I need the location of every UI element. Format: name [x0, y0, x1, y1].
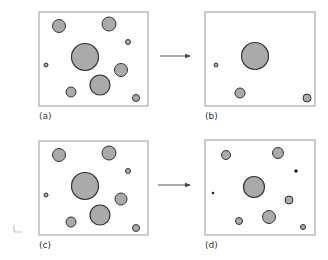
- particle-circle: [102, 146, 116, 160]
- particle-circle: [53, 20, 66, 33]
- panels-layer: (a)(b)(c)(d): [39, 12, 315, 250]
- particle-circle: [72, 44, 99, 71]
- particle-circle: [90, 205, 110, 225]
- particle-circle: [242, 43, 269, 70]
- panel-label: (c): [39, 240, 51, 250]
- panel-a: (a): [39, 12, 148, 121]
- particle-dot: [212, 192, 215, 195]
- particle-circle: [214, 63, 218, 67]
- particle-circle: [236, 218, 243, 225]
- particle-circle: [115, 64, 128, 77]
- panel-label: (d): [205, 240, 218, 250]
- particle-circle: [102, 17, 116, 31]
- corner-bracket-mark: [14, 225, 22, 232]
- panel-c: (c): [39, 141, 148, 250]
- particle-circle: [133, 225, 140, 232]
- panel-d: (d): [205, 140, 315, 250]
- particle-circle: [222, 151, 231, 160]
- particle-circle: [115, 193, 127, 205]
- particle-circle: [66, 87, 76, 97]
- particle-circle: [53, 149, 66, 162]
- particle-circle: [303, 94, 311, 102]
- particle-circle: [44, 193, 48, 197]
- diagram-canvas: (a)(b)(c)(d): [0, 0, 328, 260]
- particle-circle: [273, 148, 284, 159]
- particle-circle: [133, 95, 140, 102]
- particle-circle: [126, 169, 131, 174]
- particle-circle: [66, 217, 76, 227]
- arrows-layer: [158, 56, 190, 185]
- particle-circle: [285, 196, 293, 204]
- particle-circle: [44, 63, 48, 67]
- corner-mark: [14, 225, 22, 232]
- particle-dot: [294, 169, 298, 173]
- panel-b: (b): [205, 12, 315, 121]
- panel-label: (a): [39, 111, 52, 121]
- panel-label: (b): [205, 111, 218, 121]
- particle-circle: [72, 173, 99, 200]
- particle-circle: [235, 88, 245, 98]
- diagram-figure: (a)(b)(c)(d): [0, 0, 328, 260]
- particle-circle: [90, 75, 110, 95]
- particle-circle: [126, 40, 131, 45]
- particle-circle: [244, 177, 265, 198]
- particle-circle: [263, 211, 276, 224]
- particle-circle: [301, 225, 306, 230]
